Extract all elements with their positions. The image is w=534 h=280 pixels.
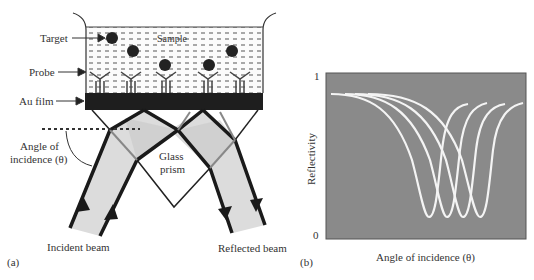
y-axis-label: Reflectivity <box>305 128 317 190</box>
angle-label-line2: incidence (θ) <box>10 153 68 165</box>
x-axis-label: Angle of incidence (θ) <box>376 251 475 263</box>
ytick-bottom: 0 <box>313 229 319 241</box>
target-label: Target <box>40 32 68 44</box>
panel-a-tag: (a) <box>7 256 19 268</box>
panel-b-tag: (b) <box>300 256 313 268</box>
probe-label: Probe <box>29 66 55 78</box>
angle-label-line1: Angle of <box>20 140 59 152</box>
spr-figure: Target Probe Au film Sample Angle of inc… <box>0 0 534 280</box>
ytick-top: 1 <box>314 70 320 82</box>
reflected-beam-label: Reflected beam <box>218 242 287 254</box>
prism-label-line2: prism <box>160 163 185 175</box>
au-film <box>85 93 263 110</box>
angle-pointer <box>66 131 92 166</box>
figure-graphics <box>0 0 534 280</box>
sample-label: Sample <box>157 33 187 45</box>
incident-beam-label: Incident beam <box>47 241 110 253</box>
au-film-label: Au film <box>19 95 54 107</box>
prism-label-line1: Glass <box>159 150 183 162</box>
